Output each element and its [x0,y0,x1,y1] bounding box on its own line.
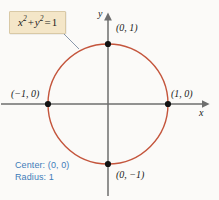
annotation-center-line: Center: (0, 0) [15,160,69,172]
x-axis-label: x [199,107,203,118]
point-marker-top [105,41,111,47]
point-marker-left [45,101,51,107]
equation-plus-sign: + [27,16,35,28]
equation-right-side: 1 [52,16,58,28]
annotation-radius-line: Radius: 1 [15,172,69,184]
point-marker-bottom [105,161,111,167]
point-marker-right [165,101,171,107]
callout-leader-line [63,33,79,49]
equation-text: x2+y2=1 [18,16,57,28]
point-label-top: (0, 1) [116,22,138,33]
point-label-right: (1, 0) [171,88,193,99]
equation-callout-box: x2+y2=1 [9,11,66,34]
circle-properties-annotation: Center: (0, 0) Radius: 1 [15,160,69,183]
point-label-left: (−1, 0) [11,88,39,99]
point-label-bottom: (0, −1) [116,169,144,180]
figure-canvas: x2+y2=1 y x (0, 1) (1, 0) (−1, 0) (0, −1… [0,0,219,200]
equation-equals-sign: = [44,16,52,28]
equation-exponent-y: 2 [40,14,44,23]
y-axis-label: y [98,8,102,19]
